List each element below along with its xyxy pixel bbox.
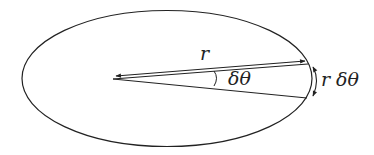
angle-label: δθ: [228, 67, 251, 89]
arc-length-arrow: [313, 67, 317, 96]
angle-arc: [214, 71, 217, 86]
lower-radius-line: [113, 79, 307, 98]
upper-radius-line: [113, 64, 308, 79]
radius-label: r: [200, 42, 211, 64]
orbit-diagram: r δθ r δθ: [0, 0, 374, 155]
orbit-ellipse: [22, 11, 312, 147]
radius-arrow: [116, 61, 305, 76]
arc-length-label: r δθ: [321, 68, 360, 90]
